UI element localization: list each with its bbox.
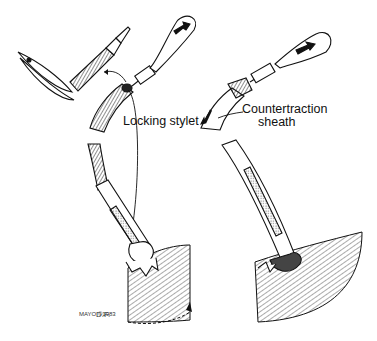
tissue-right	[255, 232, 362, 322]
stylet-handle	[70, 27, 130, 91]
stylet-loop-right	[250, 33, 331, 83]
arrowhead-icon	[104, 69, 108, 75]
locking-stylet	[132, 16, 196, 86]
signature-initials: D.F.	[96, 310, 110, 319]
leader-line-stylet	[128, 90, 138, 230]
instrument-right	[222, 140, 301, 272]
forceps-tool	[18, 52, 74, 100]
countertraction-label-line2: sheath	[258, 116, 296, 129]
locking-stylet-label: Locking stylet	[123, 115, 199, 128]
instrument-left	[88, 144, 158, 276]
illustration	[0, 0, 377, 341]
